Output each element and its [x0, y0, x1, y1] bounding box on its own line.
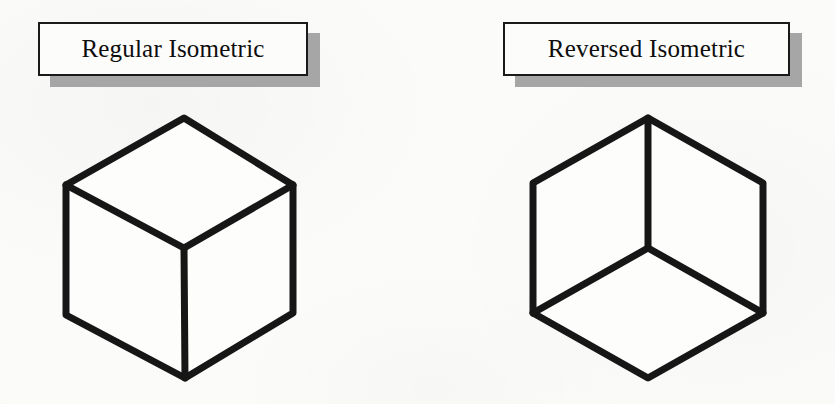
cube-regular-vertical-edge — [184, 248, 185, 378]
cube-regular-top-face-edges — [66, 185, 293, 248]
label-text-reversed: Reversed Isometric — [548, 36, 745, 63]
cube-regular-body — [66, 118, 293, 378]
label-plate-reversed: Reversed Isometric — [503, 22, 790, 76]
label-plate-regular: Regular Isometric — [38, 22, 308, 76]
cube-reversed-outline — [533, 118, 763, 378]
cube-reversed-bottom-face-edges — [533, 248, 763, 313]
label-text-regular: Regular Isometric — [81, 36, 264, 63]
cube-reversed-body — [533, 118, 763, 378]
cube-regular-outline — [66, 118, 293, 378]
figure-canvas: Regular Isometric Reversed Isometric — [0, 0, 835, 404]
